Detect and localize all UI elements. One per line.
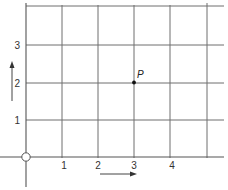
coordinate-grid-figure: 1 2 3 4 1 2 3 P [0, 0, 228, 190]
x-tick-label-4: 4 [169, 160, 175, 171]
point-p-marker [132, 81, 136, 85]
y-tick-label-3: 3 [14, 40, 20, 51]
x-tick-label-1: 1 [61, 160, 67, 171]
x-direction-arrow-icon [100, 172, 137, 177]
x-tick-label-3: 3 [131, 160, 137, 171]
y-tick-label-1: 1 [14, 115, 20, 126]
x-tick-label-2: 2 [95, 160, 101, 171]
axes [0, 3, 224, 187]
grid-lines [26, 3, 224, 158]
origin-circle-icon [22, 153, 30, 161]
point-p-label: P [137, 69, 144, 80]
y-tick-label-2: 2 [14, 78, 20, 89]
